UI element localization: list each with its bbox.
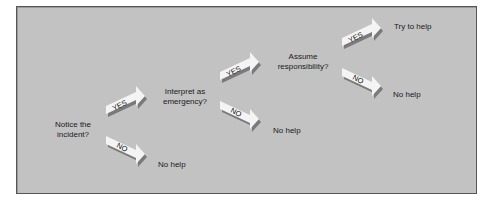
step1-no-arrow: NO xyxy=(106,136,147,167)
step2-no-arrow: NO xyxy=(220,101,261,132)
step1-no-outcome: No help xyxy=(158,160,186,170)
step2-yes-arrow: YES xyxy=(220,52,261,83)
step1-question: Notice the incident? xyxy=(48,120,98,140)
step1-yes-arrow: YES xyxy=(106,86,147,117)
step2-question: Interpret as emergency? xyxy=(155,87,215,107)
step3-no-outcome: No help xyxy=(393,90,421,100)
step3-no-arrow: NO xyxy=(342,68,383,99)
step1-question-line1: Notice the xyxy=(48,120,98,130)
step2-no-outcome: No help xyxy=(273,126,301,136)
step1-question-line2: incident? xyxy=(48,130,98,140)
step3-yes-arrow: YES xyxy=(342,18,383,49)
step3-question-line2: responsibility? xyxy=(268,62,338,72)
step2-question-line2: emergency? xyxy=(155,97,215,107)
step2-question-line1: Interpret as xyxy=(155,87,215,97)
step3-question: Assume responsibility? xyxy=(268,52,338,72)
step3-question-line1: Assume xyxy=(268,52,338,62)
step3-yes-outcome: Try to help xyxy=(394,22,432,32)
